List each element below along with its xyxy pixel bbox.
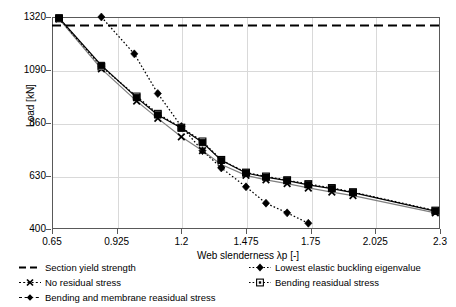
x-tick-label: 0.925 xyxy=(87,236,147,247)
x-tick-mark xyxy=(117,229,118,234)
x-tick-label: 0.65 xyxy=(22,236,82,247)
filled-square-key xyxy=(18,292,42,303)
y-tick-mark xyxy=(46,123,51,124)
legend-item[interactable]: Bending and membrane reasidual stress xyxy=(18,292,216,303)
legend-item-label: Bending reasidual stress xyxy=(275,277,379,288)
chart-legend: Section yield strengthNo residual stress… xyxy=(0,262,456,307)
x-tick-mark xyxy=(375,229,376,234)
legend-item[interactable]: Bending reasidual stress xyxy=(248,277,379,288)
legend-item[interactable]: Lowest elastic buckling eigenvalue xyxy=(248,262,421,273)
open-square-key xyxy=(248,277,272,288)
gridline-vertical xyxy=(312,18,313,228)
y-tick-mark xyxy=(46,17,51,18)
gridline-horizontal xyxy=(53,124,439,125)
y-tick-label: 860 xyxy=(0,118,46,128)
x-tick-label: 1.2 xyxy=(151,236,211,247)
x-tick-mark xyxy=(246,229,247,234)
y-tick-label: 1090 xyxy=(0,65,46,75)
x-tick-mark xyxy=(311,229,312,234)
y-tick-label: 630 xyxy=(0,171,46,181)
dashed-line-key xyxy=(18,262,42,273)
x-marker-key xyxy=(18,277,42,288)
x-axis-title: Web slenderness λp [-] xyxy=(0,250,456,261)
gridline-vertical xyxy=(182,18,183,228)
legend-item[interactable]: Section yield strength xyxy=(18,262,136,273)
legend-item[interactable]: No residual stress xyxy=(18,277,121,288)
x-tick-label: 1.475 xyxy=(216,236,276,247)
x-tick-mark xyxy=(440,229,441,234)
legend-item-label: Lowest elastic buckling eigenvalue xyxy=(275,262,421,273)
legend-item-label: Section yield strength xyxy=(45,262,136,273)
gridline-vertical xyxy=(247,18,248,228)
y-tick-mark xyxy=(46,176,51,177)
gridline-vertical xyxy=(118,18,119,228)
gridline-horizontal xyxy=(53,71,439,72)
legend-item-label: Bending and membrane reasidual stress xyxy=(45,292,216,303)
y-tick-mark xyxy=(46,70,51,71)
legend-item-label: No residual stress xyxy=(45,277,121,288)
chart-root: Load [kN] 40063086010901320 0.650.9251.2… xyxy=(0,0,456,307)
plot-area xyxy=(52,17,440,229)
x-tick-label: 2.025 xyxy=(345,236,405,247)
y-tick-label: 1320 xyxy=(0,12,46,22)
y-tick-label: 400 xyxy=(0,224,46,234)
gridline-vertical xyxy=(376,18,377,228)
y-axis-title: Load [kN] xyxy=(25,71,36,141)
y-tick-mark xyxy=(46,229,51,230)
x-tick-label: 2.3 xyxy=(410,236,456,247)
x-tick-label: 1.75 xyxy=(281,236,341,247)
gridline-horizontal xyxy=(53,177,439,178)
diamond-marker-key xyxy=(248,262,272,273)
x-tick-mark xyxy=(52,229,53,234)
x-tick-mark xyxy=(181,229,182,234)
